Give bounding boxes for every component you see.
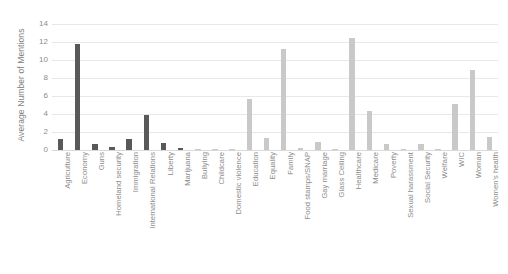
bar [315,142,321,150]
bar [109,147,115,150]
x-axis-tick: Immigration [132,152,140,192]
x-axis-tick: Guns [98,152,106,170]
y-axis-tick: 6 [28,92,48,100]
x-axis-tick: Equality [269,152,277,179]
x-axis-tick: Food stamps/SNAP [304,152,312,219]
bar [161,143,167,150]
bar [264,138,270,150]
x-axis-tick: Homeland security [115,152,123,216]
x-axis-tick: Liberty [167,152,175,175]
x-axis-tick: Sexual harassment [407,152,415,218]
bar [470,70,476,150]
bar [247,99,253,150]
y-axis-tick: 4 [28,110,48,118]
bar [452,104,458,150]
bar [418,144,424,150]
x-axis-tick: Economy [81,152,89,184]
y-axis-tick: 0 [28,146,48,154]
plot-area [52,24,498,150]
bar [332,149,338,150]
bar [75,44,81,150]
x-axis-tick: Women's health [492,152,500,207]
y-axis-tick-labels: 02468101214 [28,24,48,150]
x-axis-tick: WIC [458,152,466,167]
bar [487,137,493,151]
bar-chart: Average Number of Mentions 02468101214 A… [0,0,508,274]
bar [349,38,355,151]
x-axis-tick: Gay marriage [321,152,329,199]
bar [229,149,235,150]
x-axis-tick: Medicare [372,152,380,184]
y-axis-tick: 12 [28,38,48,46]
bar [401,149,407,150]
x-axis-tick: International Relations [149,152,157,229]
x-axis-tick: Glass Ceiling [338,152,346,197]
bar [58,139,64,150]
bar [178,148,184,150]
x-axis-tick-labels: AgricultureEconomyGunsHomeland securityI… [52,152,498,274]
x-axis-tick: Marijuana [184,152,192,186]
x-axis-tick: Woman [475,152,483,178]
y-axis-tick: 14 [28,20,48,28]
bars-layer [52,24,498,150]
x-axis-tick: Poverty [390,152,398,178]
y-axis-tick: 8 [28,74,48,82]
x-axis-tick: Bullying [201,152,209,179]
bar [126,139,132,150]
bar [435,149,441,150]
x-axis-tick: Agriculture [64,152,72,189]
x-axis-tick: Education [252,152,260,186]
bar [384,144,390,150]
x-axis-tick: Domestic violence [235,152,243,214]
x-axis-tick: Healthcare [355,152,363,189]
x-axis-tick: Social Security [424,152,432,203]
bar [92,144,98,150]
bar [195,149,201,150]
x-axis-tick: Family [287,152,295,175]
x-axis-tick: Welfare [441,152,449,178]
x-axis-tick: Childcare [218,152,226,185]
bar [367,111,373,150]
bar [298,148,304,150]
y-axis-tick: 10 [28,56,48,64]
bar [212,149,218,150]
y-axis-tick: 2 [28,128,48,136]
bar [281,49,287,150]
bar [144,115,150,150]
